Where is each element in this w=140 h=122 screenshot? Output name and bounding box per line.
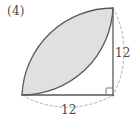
right-angle-icon bbox=[106, 88, 113, 95]
shaded-lens-region bbox=[22, 8, 113, 95]
label-horizontal-side: 12 bbox=[61, 104, 76, 116]
problem-number: (4) bbox=[7, 5, 25, 17]
geometry-figure: (4) 12 12 bbox=[0, 0, 140, 122]
label-vertical-side: 12 bbox=[115, 47, 130, 59]
